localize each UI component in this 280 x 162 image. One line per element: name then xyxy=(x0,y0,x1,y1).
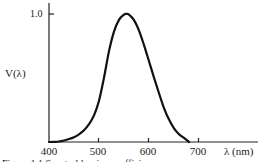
x-tick-label-400: 400 xyxy=(41,146,58,157)
y-axis-label: V(λ) xyxy=(5,68,26,79)
x-tick-label-600: 600 xyxy=(140,146,157,157)
y-tick-label: 1.0 xyxy=(30,9,43,19)
luminosity-curve xyxy=(49,14,189,142)
x-axis-label: λ (nm) xyxy=(224,146,253,157)
x-tick-label-700: 700 xyxy=(190,146,207,157)
x-tick-label-500: 500 xyxy=(90,146,107,157)
figure-caption: Figure 1.1 Spectral luminous efficiency.… xyxy=(2,158,167,162)
chart-plot xyxy=(0,0,280,162)
